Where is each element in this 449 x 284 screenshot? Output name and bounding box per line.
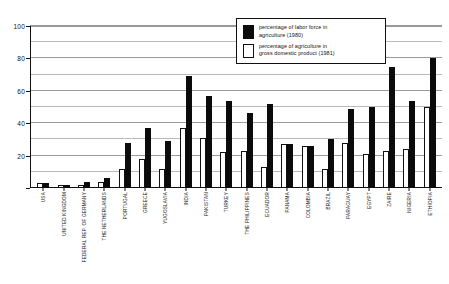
x-axis-tick: ECUADOR <box>257 190 277 278</box>
bar-labor-force <box>348 109 354 188</box>
x-tick-mark <box>144 188 145 191</box>
bar-labor-force <box>165 141 171 188</box>
x-axis-tick: PANAMA <box>277 190 297 278</box>
x-axis-tick: ZAIRE <box>379 190 399 278</box>
bar-group <box>420 26 440 188</box>
x-axis-tick: PAKISTAN <box>196 190 216 278</box>
bar-group <box>155 26 175 188</box>
y-tick-label-60: 60 <box>17 87 25 94</box>
bar-group <box>33 26 53 188</box>
x-tick-label: PANAMA <box>285 192 290 213</box>
x-tick-label: FEDERAL REP. OF GERMANY <box>81 192 86 262</box>
bar-labor-force <box>125 143 131 188</box>
x-tick-label: THE NETHERLANDS <box>102 192 107 240</box>
bar-labor-force <box>389 67 395 189</box>
bar-labor-force <box>247 113 253 188</box>
bar-labor-force <box>287 144 293 188</box>
x-tick-label: NIGERIA <box>407 192 412 213</box>
x-tick-mark <box>205 188 206 191</box>
bar-group <box>196 26 216 188</box>
x-tick-mark <box>43 188 44 191</box>
x-axis-tick: TURKEY <box>216 190 236 278</box>
y-tick-label-80: 80 <box>17 55 25 62</box>
x-axis-tick: THE PHILIPPINES <box>236 190 256 278</box>
x-axis-tick: NIGERIA <box>399 190 419 278</box>
x-tick-label: GREECE <box>142 192 147 213</box>
bar-group <box>399 26 419 188</box>
bar-labor-force <box>267 104 273 188</box>
x-axis-tick: BRAZIL <box>318 190 338 278</box>
x-tick-mark <box>327 188 328 191</box>
x-tick-label: TURKEY <box>224 192 229 212</box>
x-tick-label: PARAGUAY <box>346 192 351 219</box>
bar-labor-force <box>64 185 70 188</box>
x-tick-mark <box>287 188 288 191</box>
x-tick-label: PORTUGAL <box>122 192 127 219</box>
bar-labor-force <box>104 178 110 188</box>
x-axis-tick: INDIA <box>175 190 195 278</box>
x-tick-label: BRAZIL <box>325 192 330 210</box>
x-axis-tick: ETHIOPIA <box>420 190 440 278</box>
legend-label-gdp: percentage of agriculture in gross domes… <box>259 43 335 59</box>
bar-group <box>216 26 236 188</box>
x-axis-tick: PARAGUAY <box>338 190 358 278</box>
bar-group <box>175 26 195 188</box>
x-axis-tick: GREECE <box>135 190 155 278</box>
x-tick-mark <box>307 188 308 191</box>
x-tick-label: USA <box>41 192 46 202</box>
bar-group <box>114 26 134 188</box>
x-axis-tick: FEDERAL REP. OF GERMANY <box>74 190 94 278</box>
x-tick-label: ZAIRE <box>387 192 392 207</box>
y-tick-mark-0 <box>26 188 30 189</box>
y-axis: 20406080100 <box>0 20 30 196</box>
x-tick-mark <box>104 188 105 191</box>
bar-labor-force <box>430 58 436 188</box>
x-tick-mark <box>63 188 64 191</box>
bar-labor-force <box>226 101 232 188</box>
x-axis-tick: YUGOSLAVIA <box>155 190 175 278</box>
bar-labor-force <box>206 96 212 188</box>
y-tick-label-100: 100 <box>14 23 25 30</box>
legend-item-gdp: percentage of agriculture in gross domes… <box>243 43 381 59</box>
bar-labor-force <box>84 182 90 188</box>
legend-swatch-dark <box>243 25 254 39</box>
chart-legend: percentage of labor force in agriculture… <box>236 18 386 64</box>
x-tick-mark <box>246 188 247 191</box>
bar-labor-force <box>43 183 49 188</box>
x-tick-label: PAKISTAN <box>203 192 208 216</box>
x-tick-mark <box>124 188 125 191</box>
legend-swatch-light <box>243 44 254 58</box>
bar-labor-force <box>369 107 375 188</box>
y-tick-label-20: 20 <box>17 152 25 159</box>
bar-labor-force <box>409 101 415 188</box>
x-tick-label: ECUADOR <box>264 192 269 217</box>
x-axis-tick: USA <box>33 190 53 278</box>
x-tick-mark <box>226 188 227 191</box>
bar-labor-force <box>308 146 314 188</box>
x-axis-labels: USAUNITED KINGDOMFEDERAL REP. OF GERMANY… <box>30 190 442 278</box>
bar-labor-force <box>145 128 151 188</box>
x-tick-mark <box>348 188 349 191</box>
x-axis-tick: EGYPT <box>359 190 379 278</box>
bar-labor-force <box>328 139 334 188</box>
legend-label-labor-force: percentage of labor force in agriculture… <box>259 24 327 40</box>
x-tick-label: EGYPT <box>366 192 371 209</box>
bar-labor-force <box>186 76 192 188</box>
x-tick-label: ETHIOPIA <box>427 192 432 215</box>
legend-item-labor-force: percentage of labor force in agriculture… <box>243 24 381 40</box>
bar-group <box>135 26 155 188</box>
x-axis-tick: PORTUGAL <box>114 190 134 278</box>
x-tick-label: INDIA <box>183 192 188 206</box>
x-axis-tick: THE NETHERLANDS <box>94 190 114 278</box>
x-axis-tick: COLOMBIA <box>297 190 317 278</box>
x-tick-label: YUGOSLAVIA <box>163 192 168 224</box>
x-tick-mark <box>83 188 84 191</box>
x-tick-label: COLOMBIA <box>305 192 310 218</box>
x-tick-label: THE PHILIPPINES <box>244 192 249 235</box>
x-tick-label: UNITED KINGDOM <box>61 192 66 236</box>
x-tick-mark <box>389 188 390 191</box>
y-tick-label-40: 40 <box>17 120 25 127</box>
bar-group <box>53 26 73 188</box>
bar-group <box>74 26 94 188</box>
agriculture-bar-chart: 20406080100 USAUNITED KINGDOMFEDERAL REP… <box>0 0 449 284</box>
